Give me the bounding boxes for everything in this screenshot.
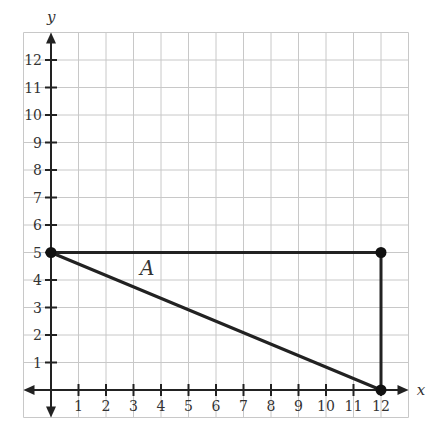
y-tick-label: 1 — [33, 355, 42, 371]
x-tick-label: 1 — [74, 398, 83, 414]
vertex-point — [376, 385, 387, 396]
x-tick-label: 7 — [239, 398, 248, 414]
x-tick-label: 4 — [157, 398, 166, 414]
x-axis-label: x — [417, 381, 426, 399]
y-axis-arrow-down-icon — [46, 407, 56, 418]
x-tick-label: 6 — [212, 398, 221, 414]
y-tick-label: 5 — [33, 245, 42, 261]
x-tick-label: 2 — [102, 398, 111, 414]
y-tick-label: 6 — [33, 217, 42, 233]
y-axis-arrow-up-icon — [46, 33, 56, 44]
x-tick-label: 3 — [129, 398, 138, 414]
y-tick-label: 12 — [24, 52, 42, 68]
y-tick-label: 8 — [33, 162, 42, 178]
y-tick-label: 11 — [24, 80, 42, 96]
vertex-point — [376, 247, 387, 258]
x-tick-label: 12 — [372, 398, 390, 414]
x-axis-arrow-right-icon — [398, 385, 409, 395]
y-tick-label: 4 — [33, 272, 42, 288]
y-tick-label: 9 — [33, 135, 42, 151]
y-tick-label: 2 — [33, 327, 42, 343]
y-tick-label: 10 — [24, 107, 42, 123]
coordinate-plane: 123456789101112123456789101112xyA — [0, 0, 437, 428]
x-tick-label: 10 — [317, 398, 335, 414]
x-tick-label: 5 — [184, 398, 193, 414]
x-tick-label: 11 — [345, 398, 363, 414]
y-tick-label: 7 — [33, 190, 42, 206]
shape-label: A — [138, 256, 154, 280]
x-axis-arrow-left-icon — [24, 385, 35, 395]
y-axis-label: y — [46, 8, 56, 26]
x-tick-label: 9 — [294, 398, 303, 414]
y-tick-label: 3 — [33, 300, 42, 316]
x-tick-label: 8 — [267, 398, 276, 414]
vertex-point — [46, 247, 57, 258]
